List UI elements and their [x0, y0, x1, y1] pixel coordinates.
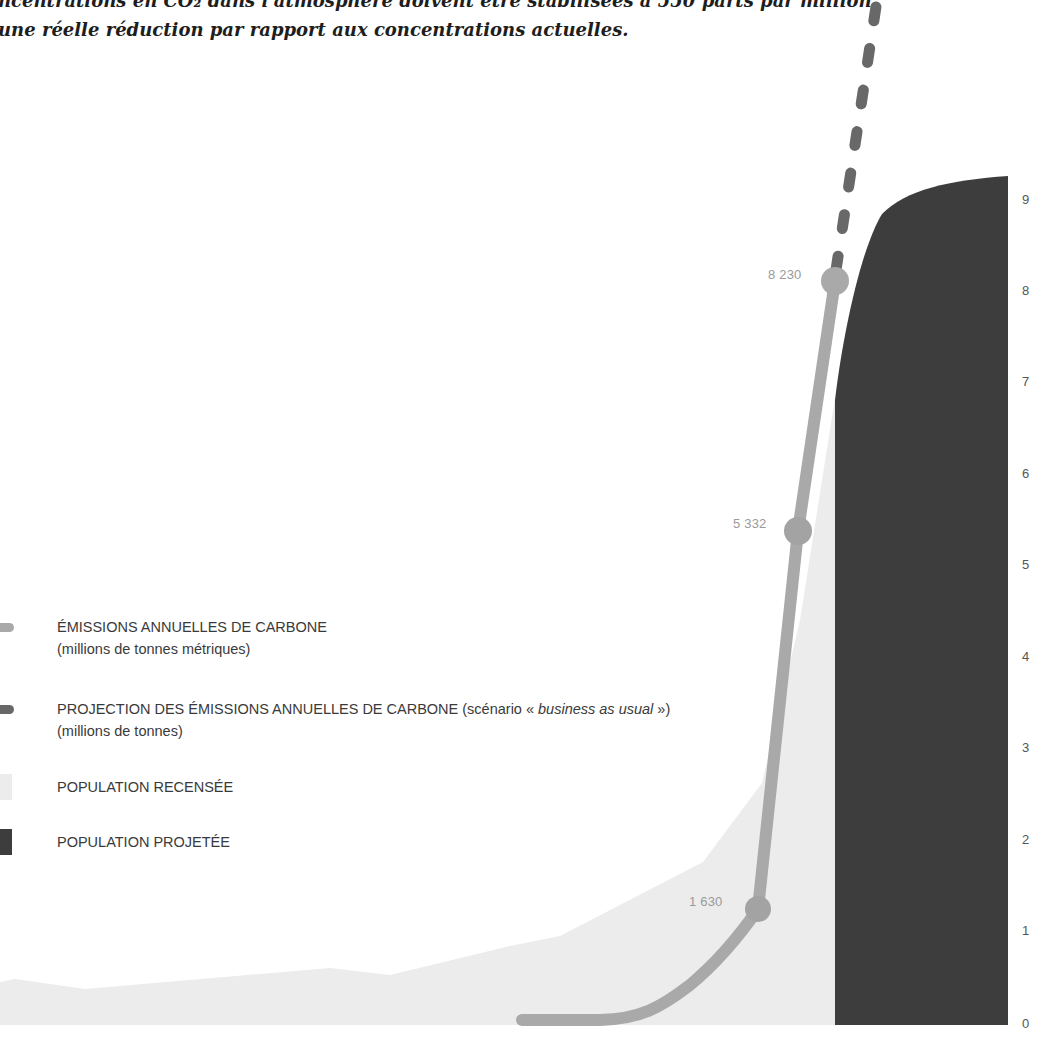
projection-swatch-icon	[0, 705, 14, 714]
axis-tick-0: 0	[1022, 1017, 1029, 1031]
axis-tick-5: 5	[1022, 558, 1029, 572]
axis-tick-4: 4	[1022, 650, 1029, 664]
data-label-1630: 1 630	[689, 895, 723, 909]
axis-tick-9: 9	[1022, 193, 1029, 207]
legend-projection-unit: (millions de tonnes)	[57, 720, 670, 742]
legend-emissions-title: ÉMISSIONS ANNUELLES DE CARBONE	[57, 616, 327, 638]
emissions-point-8230	[821, 267, 849, 295]
axis-tick-7: 7	[1022, 375, 1029, 389]
emissions-point-5332	[784, 517, 812, 545]
emissions-point-1630	[745, 896, 771, 922]
data-label-5332: 5 332	[733, 517, 767, 531]
legend-projection-title-a: PROJECTION DES ÉMISSIONS ANNUELLES DE CA…	[57, 701, 538, 717]
axis-tick-2: 2	[1022, 833, 1029, 847]
legend-projection-title: PROJECTION DES ÉMISSIONS ANNUELLES DE CA…	[57, 698, 670, 720]
legend-census-label: POPULATION RECENSÉE	[57, 776, 233, 798]
chart-plot	[0, 0, 1050, 1040]
emissions-swatch-icon	[0, 623, 14, 632]
legend-projection-title-b: »)	[653, 701, 670, 717]
population-projected-area	[835, 176, 1008, 1025]
axis-tick-1: 1	[1022, 924, 1029, 938]
legend-projection-title-em: business as usual	[538, 701, 653, 717]
axis-tick-6: 6	[1022, 467, 1029, 481]
legend-projected-label: POPULATION PROJETÉE	[57, 831, 230, 853]
axis-tick-3: 3	[1022, 741, 1029, 755]
data-label-8230: 8 230	[768, 268, 802, 282]
projection-dashed-line	[836, 0, 877, 270]
axis-tick-8: 8	[1022, 284, 1029, 298]
projected-swatch-icon	[0, 829, 12, 855]
census-swatch-icon	[0, 774, 12, 800]
legend-emissions-unit: (millions de tonnes métriques)	[57, 638, 327, 660]
